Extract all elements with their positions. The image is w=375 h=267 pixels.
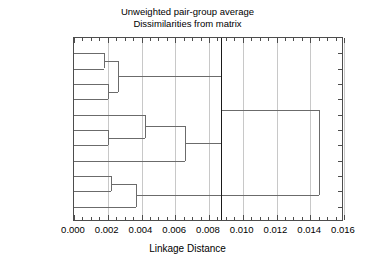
axis-tick-minor bbox=[184, 38, 185, 41]
axis-tick-minor bbox=[277, 38, 278, 41]
axis-tick-minor bbox=[302, 38, 303, 41]
axis-tick-minor bbox=[175, 217, 176, 220]
x-tick-label: 0.016 bbox=[331, 224, 355, 235]
axis-tick-minor bbox=[125, 217, 126, 220]
axis-tick-minor bbox=[201, 217, 202, 220]
plot-area bbox=[73, 37, 343, 221]
threshold-line bbox=[221, 38, 222, 220]
axis-tick-minor bbox=[201, 38, 202, 41]
axis-tick-minor bbox=[99, 38, 100, 41]
axis-tick-minor bbox=[209, 217, 210, 220]
axis-tick-minor bbox=[175, 38, 176, 41]
axis-tick-minor bbox=[310, 38, 311, 41]
dendrogram-branch bbox=[136, 195, 318, 196]
axis-tick-minor bbox=[217, 217, 218, 220]
axis-tick-side bbox=[338, 207, 342, 208]
x-tick-label: 0.002 bbox=[95, 224, 119, 235]
axis-tick-minor bbox=[260, 217, 261, 220]
dendrogram-branch bbox=[74, 99, 108, 100]
axis-tick-minor bbox=[91, 38, 92, 41]
x-tick-label: 0.008 bbox=[196, 224, 220, 235]
axis-tick-side bbox=[338, 115, 342, 116]
axis-tick-minor bbox=[133, 38, 134, 41]
axis-tick-side bbox=[338, 69, 342, 70]
axis-tick-minor bbox=[251, 217, 252, 220]
axis-tick-minor bbox=[192, 38, 193, 41]
axis-tick-minor bbox=[99, 217, 100, 220]
axis-tick-minor bbox=[344, 217, 345, 220]
axis-tick-side bbox=[338, 161, 342, 162]
axis-tick-minor bbox=[234, 38, 235, 41]
gridline bbox=[243, 38, 244, 220]
axis-tick-minor bbox=[133, 217, 134, 220]
dendrogram-branch bbox=[221, 110, 319, 111]
gridline bbox=[344, 38, 345, 220]
axis-tick-side bbox=[338, 145, 342, 146]
x-tick-label: 0.010 bbox=[230, 224, 254, 235]
axis-tick-minor bbox=[108, 217, 109, 220]
axis-tick-minor bbox=[344, 38, 345, 41]
axis-tick-minor bbox=[319, 217, 320, 220]
x-tick-labels: 0.0000.0020.0040.0060.0080.0100.0120.014… bbox=[0, 224, 375, 238]
x-tick-label: 0.012 bbox=[264, 224, 288, 235]
dendrogram-branch bbox=[74, 115, 145, 116]
axis-tick-minor bbox=[82, 217, 83, 220]
axis-tick-minor bbox=[268, 38, 269, 41]
dendrogram-branch bbox=[74, 191, 111, 192]
x-tick-label: 0.000 bbox=[61, 224, 85, 235]
dendrogram-branch bbox=[108, 138, 145, 139]
chart-title: Unweighted pair-group average bbox=[0, 6, 375, 18]
x-tick-label: 0.014 bbox=[297, 224, 321, 235]
x-tick-label: 0.006 bbox=[162, 224, 186, 235]
axis-tick-minor bbox=[142, 38, 143, 41]
axis-tick-minor bbox=[293, 217, 294, 220]
chart-subtitle: Dissimilarities from matrix bbox=[0, 18, 375, 30]
dendrogram-branch bbox=[74, 161, 185, 162]
axis-tick-side bbox=[338, 53, 342, 54]
gridline bbox=[142, 38, 143, 220]
axis-tick-minor bbox=[167, 217, 168, 220]
gridline bbox=[277, 38, 278, 220]
gridline bbox=[175, 38, 176, 220]
axis-tick-minor bbox=[243, 217, 244, 220]
axis-tick-minor bbox=[74, 38, 75, 41]
axis-tick-minor bbox=[302, 217, 303, 220]
dendrogram-branch bbox=[74, 130, 108, 131]
axis-tick-minor bbox=[192, 217, 193, 220]
gridline bbox=[310, 38, 311, 220]
axis-tick-minor bbox=[268, 217, 269, 220]
dendrogram-branch bbox=[185, 143, 220, 144]
axis-tick-minor bbox=[116, 217, 117, 220]
axis-tick-minor bbox=[158, 217, 159, 220]
axis-tick-minor bbox=[226, 217, 227, 220]
dendrogram-branch bbox=[108, 92, 118, 93]
axis-tick-minor bbox=[184, 217, 185, 220]
dendrogram-branch bbox=[74, 53, 104, 54]
axis-tick-side bbox=[338, 130, 342, 131]
axis-tick-minor bbox=[277, 217, 278, 220]
gridline bbox=[108, 38, 109, 220]
dendrogram-connector bbox=[319, 110, 320, 195]
axis-tick-minor bbox=[116, 38, 117, 41]
axis-tick-minor bbox=[243, 38, 244, 41]
axis-tick-minor bbox=[217, 38, 218, 41]
axis-tick-minor bbox=[108, 38, 109, 41]
dendrogram-branch bbox=[74, 207, 136, 208]
axis-tick-minor bbox=[167, 38, 168, 41]
axis-tick-minor bbox=[260, 38, 261, 41]
axis-tick-minor bbox=[285, 38, 286, 41]
dendrogram-branch bbox=[74, 176, 111, 177]
gridline bbox=[209, 38, 210, 220]
x-axis-title: Linkage Distance bbox=[0, 243, 375, 254]
axis-tick-side bbox=[338, 191, 342, 192]
axis-tick-minor bbox=[327, 38, 328, 41]
axis-tick-minor bbox=[251, 38, 252, 41]
axis-tick-minor bbox=[91, 217, 92, 220]
axis-tick-minor bbox=[209, 38, 210, 41]
chart-title-block: Unweighted pair-group average Dissimilar… bbox=[0, 6, 375, 30]
axis-tick-minor bbox=[74, 217, 75, 220]
axis-tick-minor bbox=[142, 217, 143, 220]
axis-tick-minor bbox=[150, 217, 151, 220]
axis-tick-minor bbox=[319, 38, 320, 41]
axis-tick-minor bbox=[310, 217, 311, 220]
